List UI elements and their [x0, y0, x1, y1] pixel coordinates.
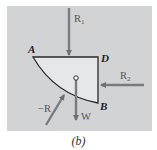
- force-label-r1: R1: [74, 13, 85, 26]
- force-label-r2: R2: [120, 70, 131, 83]
- point-label-a: A: [27, 43, 35, 55]
- quarter-circle-body: [33, 57, 98, 103]
- free-body-diagram: A D B R1 R2 −R W: [0, 0, 157, 150]
- centroid-marker: [74, 76, 78, 80]
- force-label-w: W: [81, 111, 91, 122]
- point-label-d: D: [100, 52, 109, 64]
- force-label-neg-r: −R: [38, 103, 51, 114]
- point-label-b: B: [99, 100, 107, 112]
- figure-caption: (b): [0, 134, 157, 149]
